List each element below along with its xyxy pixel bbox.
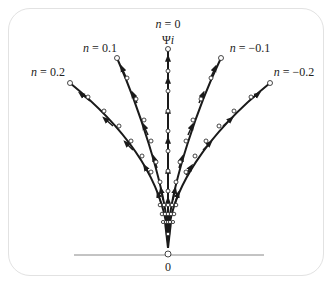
label-n-0.2: n = −0.2: [274, 65, 315, 79]
label-n0.1: n = 0.1: [83, 41, 117, 55]
origin-node: [165, 251, 171, 257]
arrow-markers: [81, 58, 258, 210]
label-origin: 0: [165, 260, 171, 274]
label-n0.2: n = 0.2: [31, 65, 65, 79]
label-psi-i: Ψi: [162, 33, 174, 47]
label-n0: n = 0: [156, 17, 181, 31]
flow-diagram: n = 0 Ψi n = 0.1 n = 0.2 n = −0.1 n = −0…: [0, 0, 332, 284]
label-n-0.1: n = −0.1: [230, 41, 271, 55]
